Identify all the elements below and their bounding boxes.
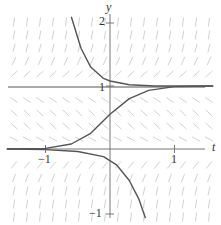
- slope-segment: [169, 213, 170, 222]
- slope-segment: [26, 18, 27, 27]
- slope-segment: [142, 57, 146, 65]
- slope-segment: [169, 18, 170, 27]
- slope-segment: [166, 97, 173, 102]
- slope-segment: [155, 174, 158, 182]
- slope-segment: [26, 44, 28, 53]
- slope-segment: [65, 18, 66, 27]
- slope-segment: [127, 137, 135, 141]
- plot-area: [0, 0, 221, 225]
- slope-segment: [102, 110, 109, 116]
- slope-segment: [13, 213, 14, 222]
- slope-segment: [39, 18, 40, 27]
- slope-segment: [140, 97, 147, 102]
- slope-segment: [39, 200, 40, 209]
- slope-segment: [65, 200, 66, 209]
- slope-segment: [192, 137, 200, 141]
- slope-segment: [25, 174, 28, 182]
- slope-segment: [76, 110, 83, 116]
- slope-segment: [156, 213, 157, 222]
- slope-segment: [130, 200, 131, 209]
- slope-segment: [65, 213, 66, 222]
- slope-segment: [88, 97, 95, 102]
- slope-segment: [13, 44, 15, 53]
- slope-segment: [49, 97, 56, 102]
- slope-segment: [154, 123, 161, 129]
- slope-segment: [114, 137, 122, 141]
- slope-segment: [155, 57, 159, 65]
- slope-segment: [141, 123, 148, 129]
- slope-segment: [65, 44, 67, 53]
- slope-segment: [37, 71, 44, 77]
- slope-segment: [10, 97, 17, 102]
- slope-segment: [52, 18, 53, 27]
- slope-segment: [39, 213, 40, 222]
- slope-segment: [52, 187, 54, 196]
- slope-segment: [89, 71, 96, 77]
- slope-segment: [208, 31, 210, 40]
- slope-segment: [102, 123, 109, 129]
- slope-segment: [50, 110, 57, 116]
- slope-segment: [182, 44, 184, 53]
- slope-segment: [91, 44, 93, 53]
- slope-segment: [26, 213, 27, 222]
- slope-segment: [193, 71, 200, 77]
- slope-segment: [39, 44, 41, 53]
- slope-segment: [166, 137, 174, 141]
- slope-segment: [104, 213, 105, 222]
- slope-segment: [26, 31, 28, 40]
- slope-segment: [208, 18, 209, 27]
- slope-segment: [13, 18, 14, 27]
- slope-segment: [129, 57, 133, 65]
- slope-segment: [11, 123, 18, 129]
- slope-segment: [65, 31, 67, 40]
- slope-segment: [12, 57, 16, 65]
- slope-segment: [75, 97, 82, 102]
- slope-segment: [169, 200, 170, 209]
- slope-segment: [143, 187, 145, 196]
- slope-segment: [128, 161, 134, 168]
- slope-segment: [179, 137, 187, 141]
- slope-segment: [36, 137, 44, 141]
- slope-segment: [141, 161, 147, 168]
- slope-segment: [115, 110, 122, 116]
- slope-segment: [117, 31, 119, 40]
- slope-segment: [117, 200, 118, 209]
- slope-segment: [117, 44, 119, 53]
- y-axis-label: y: [106, 1, 111, 13]
- slope-segment: [76, 161, 82, 168]
- slope-segment: [141, 71, 148, 77]
- slope-segment: [10, 137, 18, 141]
- slope-segment: [128, 123, 135, 129]
- slope-segment: [153, 97, 160, 102]
- slope-segment: [168, 174, 171, 182]
- slope-segment: [130, 18, 131, 27]
- slope-segment: [24, 110, 31, 116]
- slope-segment: [154, 110, 161, 116]
- slope-segment: [206, 110, 213, 116]
- slope-segment: [193, 123, 200, 129]
- slope-segment: [167, 110, 174, 116]
- slope-segment: [181, 174, 184, 182]
- slope-segment: [182, 31, 184, 40]
- slope-segment: [195, 187, 197, 196]
- slope-segment: [25, 57, 29, 65]
- slope-segment: [64, 174, 67, 182]
- slope-segment: [76, 123, 83, 129]
- slope-segment: [91, 31, 93, 40]
- slope-segment: [11, 71, 18, 77]
- slope-segment: [38, 57, 42, 65]
- y-tick-2: 2: [99, 15, 105, 27]
- slope-segment: [63, 161, 69, 168]
- slope-segment: [192, 97, 199, 102]
- slope-segment: [141, 110, 148, 116]
- slope-segment: [115, 71, 122, 77]
- slope-segment: [103, 57, 107, 65]
- slope-segment: [130, 31, 132, 40]
- slope-segment: [52, 44, 54, 53]
- slope-segment: [51, 57, 55, 65]
- slope-segment: [156, 200, 157, 209]
- slope-segment: [52, 213, 53, 222]
- slope-segment: [154, 71, 161, 77]
- slope-segment: [89, 110, 96, 116]
- slope-segment: [115, 123, 122, 129]
